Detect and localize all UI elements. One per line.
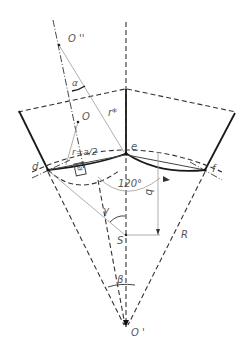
gamma-arc bbox=[110, 216, 125, 222]
label-o-double-prime: O '' bbox=[68, 33, 85, 44]
r-half-line bbox=[66, 122, 78, 165]
label-b: b bbox=[144, 189, 155, 195]
label-o: O bbox=[82, 111, 90, 122]
point-f bbox=[203, 168, 206, 171]
label-d: d bbox=[32, 161, 39, 172]
label-beta: β bbox=[116, 274, 124, 285]
point-d bbox=[46, 168, 49, 171]
point-o-double-prime bbox=[58, 44, 61, 47]
point-s bbox=[125, 234, 127, 236]
chord-d-e bbox=[48, 155, 125, 170]
point-o-prime bbox=[123, 320, 129, 327]
label-alpha: α bbox=[72, 78, 78, 88]
point-e bbox=[124, 152, 128, 156]
label-r: R bbox=[181, 229, 188, 240]
label-a: a bbox=[75, 165, 85, 171]
r-star-line bbox=[59, 45, 124, 152]
cone-left bbox=[48, 172, 124, 325]
cone-right bbox=[128, 172, 205, 325]
geometric-diagram: O '' O r* α r=a/2 e d f a 120° b γ S R β… bbox=[0, 0, 248, 357]
d-to-s-line bbox=[50, 172, 125, 235]
label-gamma: γ bbox=[103, 205, 110, 216]
label-f: f bbox=[212, 163, 217, 174]
label-120: 120° bbox=[118, 178, 142, 189]
b-arrow bbox=[156, 229, 160, 235]
label-r-star: r* bbox=[108, 107, 117, 118]
label-s: S bbox=[117, 235, 124, 246]
chord-e-f bbox=[127, 155, 205, 170]
label-o-prime: O ' bbox=[131, 327, 145, 338]
arrow-120 bbox=[163, 176, 170, 182]
point-o bbox=[77, 121, 80, 124]
right-square-side bbox=[205, 113, 235, 170]
cone-inner bbox=[98, 180, 125, 325]
right-square-outline bbox=[127, 89, 236, 112]
lower-dashed-arc-left bbox=[48, 170, 120, 185]
label-r-half: r=a/2 bbox=[72, 147, 98, 157]
label-e: e bbox=[131, 141, 137, 152]
